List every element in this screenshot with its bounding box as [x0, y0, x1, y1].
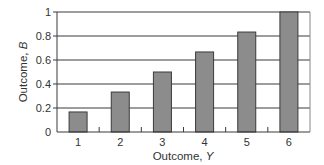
y-tick-labels: 00.20.40.60.81	[36, 6, 51, 138]
bar-4	[196, 52, 214, 132]
bar-5	[238, 32, 256, 132]
bar-2	[111, 92, 129, 132]
y-tick-label: 0.4	[36, 78, 51, 90]
y-tick-label: 0	[45, 126, 51, 138]
x-tick-label: 3	[159, 136, 165, 148]
x-tick-label: 2	[117, 136, 123, 148]
gridlines	[53, 12, 310, 108]
x-tick-label: 4	[202, 136, 208, 148]
x-tick-label: 5	[244, 136, 250, 148]
x-tick-label: 6	[286, 136, 292, 148]
y-tick-label: 0.2	[36, 102, 51, 114]
y-tick-label: 0.6	[36, 54, 51, 66]
y-tick-label: 1	[45, 6, 51, 18]
x-tick-label: 1	[75, 136, 81, 148]
bar-3	[153, 72, 171, 132]
y-axis-label: Outcome, B	[17, 41, 29, 102]
x-tick-labels: 123456	[75, 136, 292, 148]
axes	[57, 12, 310, 132]
bar-1	[69, 112, 87, 132]
x-axis-label: Outcome, Y	[153, 150, 215, 162]
y-tick-label: 0.8	[36, 30, 51, 42]
bar-6	[280, 12, 298, 132]
bar-chart: 00.20.40.60.81 123456 Outcome, Y Outcome…	[0, 0, 324, 165]
bars	[69, 12, 298, 132]
